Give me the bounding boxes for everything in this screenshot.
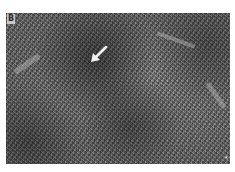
micrograph-panel: B * xyxy=(6,13,230,164)
arrow-icon xyxy=(89,44,109,64)
tissue-grain xyxy=(6,13,230,164)
panel-label: B xyxy=(7,14,15,24)
corner-marker: * xyxy=(225,156,229,163)
